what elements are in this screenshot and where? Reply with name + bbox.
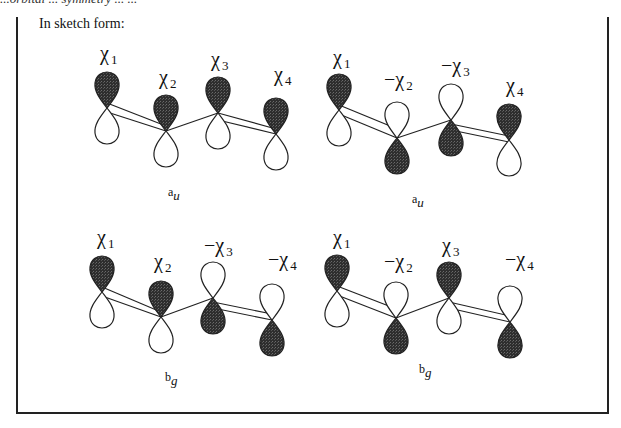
- orbital-2: [385, 102, 409, 174]
- orbital-3: [437, 262, 461, 334]
- symmetry-label: au: [168, 185, 180, 203]
- orbital-4: [498, 286, 522, 358]
- symmetry-label: bg: [419, 362, 432, 380]
- label-chi-3: χ3: [210, 48, 228, 73]
- orbital-1: [90, 256, 114, 328]
- orbital-1: [327, 74, 351, 146]
- butadiene-pi-orbitals-sketch: χ1 χ2 χ3 χ4 au χ1 −χ2: [0, 0, 621, 428]
- label-chi-4: −χ4: [505, 248, 534, 273]
- label-chi-2: χ2: [153, 250, 171, 275]
- bond-skeleton: [102, 287, 272, 320]
- orbital-1: [325, 255, 349, 327]
- label-chi-1: χ1: [99, 42, 117, 67]
- diagram-bottom-right: χ1 −χ2 χ3 −χ4 bg: [325, 226, 534, 380]
- label-chi-3: −χ3: [441, 54, 470, 79]
- diagram-bottom-left: χ1 χ2 −χ3 −χ4 bg: [90, 226, 297, 388]
- orbital-3: [201, 262, 225, 334]
- label-chi-2: −χ2: [384, 250, 413, 275]
- label-chi-1: χ1: [332, 46, 350, 71]
- orbital-1: [95, 72, 119, 144]
- orbital-4: [264, 98, 288, 170]
- label-chi-4: χ4: [273, 63, 292, 88]
- bond-skeleton: [107, 103, 276, 134]
- orbital-3: [206, 77, 230, 149]
- orbital-4: [260, 284, 284, 356]
- orbital-2: [154, 95, 178, 167]
- label-chi-2: −χ2: [384, 68, 413, 93]
- label-chi-4: −χ4: [268, 248, 297, 273]
- symmetry-label: au: [412, 192, 424, 210]
- orbital-3: [439, 84, 463, 156]
- label-chi-2: χ2: [158, 66, 176, 91]
- orbital-2: [149, 281, 173, 353]
- bond-skeleton: [339, 105, 509, 142]
- label-chi-4: χ4: [505, 74, 524, 99]
- label-chi-1: χ1: [332, 226, 350, 251]
- diagram-top-right: χ1 −χ2 −χ3 χ4 au: [327, 46, 524, 210]
- symmetry-label: bg: [165, 370, 178, 388]
- label-chi-3: −χ3: [204, 234, 233, 259]
- label-chi-3: χ3: [441, 234, 459, 259]
- diagram-top-left: χ1 χ2 χ3 χ4 au: [95, 42, 292, 203]
- orbital-2: [384, 282, 408, 354]
- label-chi-1: χ1: [96, 226, 114, 251]
- bond-skeleton: [337, 286, 510, 322]
